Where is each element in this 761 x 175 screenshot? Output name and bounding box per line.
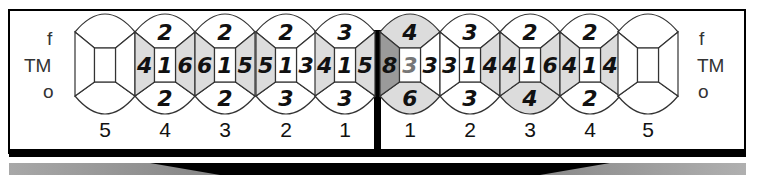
tooth-number-right-5: 5 (633, 118, 663, 142)
surface-bottom-value: 2 (582, 86, 597, 111)
tooth-number-left-2: 2 (271, 118, 301, 142)
surface-left-value: 5 (258, 53, 273, 78)
surface-right-value: 4 (482, 53, 498, 78)
tooth-right-3: 24461 (500, 14, 560, 114)
row-label-bottom-left: o (43, 81, 54, 103)
surface-bottom-value: 3 (278, 86, 293, 111)
dental-chart: 2246122651235313345146833333412446122441 (0, 0, 761, 175)
surface-center-value: 1 (337, 53, 352, 78)
surface-center (95, 48, 116, 82)
row-label-top-right: f (699, 28, 704, 50)
surface-right-value: 6 (543, 53, 558, 78)
surface-top-value: 2 (522, 20, 537, 45)
surface-right-value: 5 (238, 53, 253, 78)
tooth-right-1: 46833 (380, 14, 440, 114)
tooth-number-right-1: 1 (395, 118, 425, 142)
surface-right-value: 4 (602, 53, 618, 78)
surface-center-value: 3 (402, 53, 417, 78)
tooth-left-4: 22461 (135, 14, 195, 114)
surface-top-value: 2 (582, 20, 597, 45)
surface-center-value: 1 (278, 53, 293, 78)
tooth-number-left-4: 4 (150, 118, 180, 142)
row-label-bottom-right: o (698, 81, 709, 103)
surface-center-value: 1 (217, 53, 232, 78)
surface-left-value: 3 (442, 53, 457, 78)
surface-left-value: 4 (561, 53, 577, 78)
surface-top-value: 3 (337, 20, 352, 45)
row-label-middle-right: TM (697, 55, 724, 77)
surface-right-value: 3 (423, 53, 438, 78)
tooth-left-1: 33451 (315, 14, 375, 114)
surface-left-value: 4 (316, 53, 332, 78)
tooth-number-right-3: 3 (515, 118, 545, 142)
surface-left-value: 4 (501, 53, 517, 78)
tooth-number-right-4: 4 (575, 118, 605, 142)
surface-bottom-value: 3 (337, 86, 352, 111)
row-label-middle-left: TM (24, 55, 51, 77)
tooth-right-5 (618, 14, 678, 114)
tooth-number-left-3: 3 (210, 118, 240, 142)
surface-left-value: 8 (382, 53, 397, 78)
tooth-number-right-2: 2 (455, 118, 485, 142)
surface-right-value: 5 (358, 53, 373, 78)
surface-center-value: 1 (582, 53, 597, 78)
tooth-left-3: 22651 (195, 14, 255, 114)
surface-top-value: 4 (401, 20, 417, 45)
surface-left-value: 4 (136, 53, 152, 78)
tooth-number-left-5: 5 (90, 118, 120, 142)
tooth-right-4: 22441 (560, 14, 620, 114)
surface-bottom-value: 3 (462, 86, 477, 111)
bottom-band (9, 163, 746, 175)
surface-center-value: 1 (462, 53, 477, 78)
surface-center-value: 1 (157, 53, 172, 78)
surface-top-value: 2 (217, 20, 232, 45)
surface-right-value: 6 (178, 53, 193, 78)
surface-bottom-value: 4 (521, 86, 537, 111)
tooth-number-left-1: 1 (330, 118, 360, 142)
tooth-right-2: 33341 (440, 14, 500, 114)
surface-top-value: 3 (462, 20, 477, 45)
surface-top-value: 2 (278, 20, 293, 45)
tooth-left-5 (75, 14, 135, 114)
surface-center (638, 48, 659, 82)
surface-top-value: 2 (157, 20, 172, 45)
surface-bottom-value: 6 (402, 86, 417, 111)
surface-center-value: 1 (522, 53, 537, 78)
surface-bottom-value: 2 (217, 86, 232, 111)
tooth-left-2: 23531 (256, 14, 316, 114)
surface-bottom-value: 2 (157, 86, 172, 111)
row-label-top-left: f (47, 28, 52, 50)
surface-left-value: 6 (197, 53, 212, 78)
surface-right-value: 3 (299, 53, 314, 78)
